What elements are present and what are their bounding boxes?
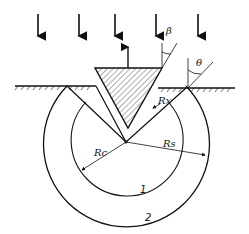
rx-label: Rx: [157, 95, 172, 106]
apex-point: [125, 141, 128, 144]
zone-2-label: 2: [145, 212, 151, 223]
beta-label: β: [165, 25, 172, 36]
theta-label: θ: [196, 57, 202, 68]
diagram-canvas: β θ Rx Rc Rs 1 2: [0, 0, 249, 234]
zone-1-label: 1: [140, 184, 146, 195]
beta-angle-marker: [162, 43, 177, 68]
load-arrows: [38, 14, 198, 36]
rc-label: Rc: [93, 147, 108, 158]
cone-penetration-diagram: β θ Rx Rc Rs 1 2: [0, 0, 249, 234]
rs-label: Rs: [162, 138, 176, 149]
